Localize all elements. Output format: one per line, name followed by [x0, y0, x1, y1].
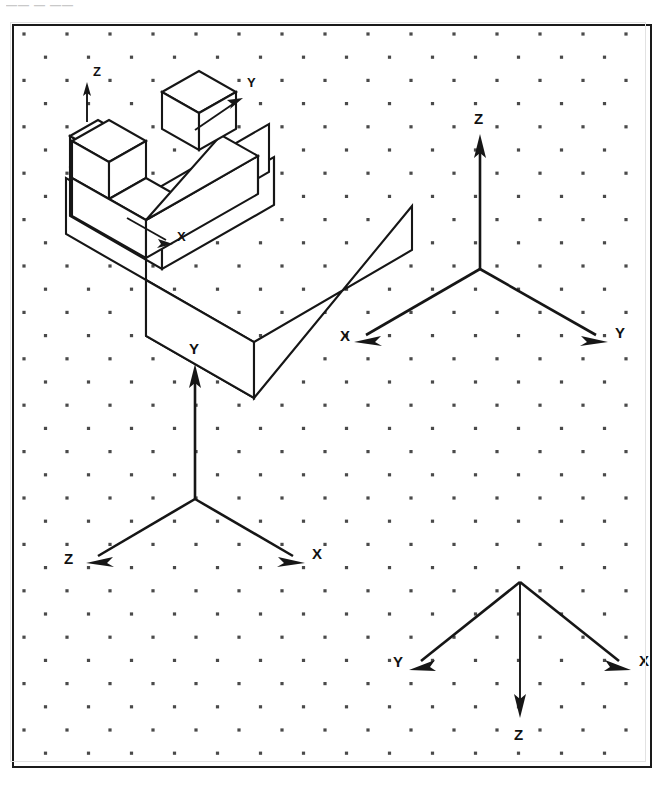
drawing-page-frame: Z Y X Z Y X — [12, 24, 652, 768]
ur-x-label: X — [340, 327, 350, 344]
axis-system-upper-right: Z Y X — [340, 110, 625, 346]
pictorial-z-label: Z — [93, 64, 101, 79]
ml-z-arrowhead — [86, 557, 114, 567]
axis-system-middle-left: Y X Z — [64, 340, 322, 567]
stepped-block-pictorial: Z Y X — [72, 64, 258, 258]
ur-x-arrowhead — [354, 336, 382, 346]
ml-x-arrowhead — [277, 557, 305, 567]
br-y-line — [421, 582, 520, 661]
ml-x-label: X — [312, 545, 322, 562]
br-x-line — [520, 582, 619, 661]
pictorial-x-label: X — [177, 229, 186, 244]
ml-x-line — [195, 499, 293, 556]
final-drawing-layer: Z Y X Z Y X — [14, 26, 650, 766]
axis-system-bottom-right: Z X Y — [393, 582, 649, 743]
ur-y-line — [480, 269, 596, 335]
ur-y-arrowhead — [580, 336, 608, 346]
scan-header-text: —— — —— — [6, 0, 126, 12]
br-z-label: Z — [514, 726, 523, 743]
ur-z-label: Z — [474, 110, 483, 127]
ml-z-label: Z — [64, 550, 73, 567]
ml-y-label: Y — [189, 340, 199, 357]
br-y-label: Y — [393, 653, 403, 670]
ur-y-label: Y — [615, 324, 625, 341]
pictorial-y-label: Y — [247, 75, 256, 90]
br-x-arrowhead — [604, 660, 631, 671]
br-x-label: X — [639, 652, 649, 669]
br-y-arrowhead — [409, 660, 436, 671]
ml-z-line — [98, 499, 195, 556]
ur-x-line — [366, 269, 480, 335]
